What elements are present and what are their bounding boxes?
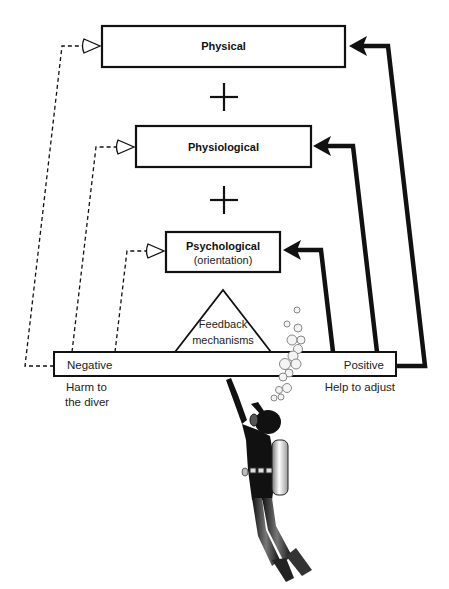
level-psychological: Psychological (orientation) xyxy=(166,232,280,272)
negative-feedback-lines xyxy=(25,46,147,366)
negative-label: Negative xyxy=(67,359,112,371)
feedback-diagram: Physical Physiological Psychological (or… xyxy=(0,0,449,589)
negative-line-physical xyxy=(25,46,83,366)
harm-label-line2: the diver xyxy=(65,396,109,408)
physical-label: Physical xyxy=(201,40,246,52)
psychological-sublabel: (orientation) xyxy=(194,254,253,266)
open-arrow-icon xyxy=(117,140,135,154)
level-physical: Physical xyxy=(102,26,345,67)
open-arrow-icon xyxy=(83,39,101,53)
feedback-label-line2: mechanisms xyxy=(192,334,254,346)
open-arrow-icon xyxy=(147,244,165,258)
level-physiological: Physiological xyxy=(136,126,311,167)
positive-label: Positive xyxy=(344,359,384,371)
plus-operator-2 xyxy=(210,186,238,214)
harm-label-line1: Harm to xyxy=(66,381,107,393)
scuba-diver-icon xyxy=(226,378,312,582)
negative-line-physiological xyxy=(72,147,117,352)
positive-feedback-lines xyxy=(296,46,425,366)
plus-operator-1 xyxy=(210,83,238,111)
feedback-mechanisms: Feedback mechanisms xyxy=(175,290,271,352)
psychological-box xyxy=(166,232,280,272)
feedback-label-line1: Feedback xyxy=(199,318,248,330)
positive-line-physiological xyxy=(326,146,377,352)
outcome-bar: Negative Positive xyxy=(54,352,396,376)
help-label: Help to adjust xyxy=(325,381,396,393)
psychological-label: Psychological xyxy=(186,240,260,252)
negative-line-psychological xyxy=(115,251,147,352)
physiological-label: Physiological xyxy=(188,141,259,153)
